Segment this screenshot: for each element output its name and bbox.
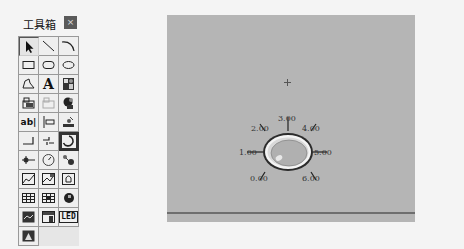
dial-meter-icon [61, 134, 76, 148]
tool-ellipse[interactable] [59, 56, 79, 75]
arc-icon [61, 39, 76, 53]
tool-xy-chart[interactable] [39, 170, 59, 189]
dial-label-3: 3.00 [278, 114, 296, 123]
slider-icon [41, 115, 56, 129]
close-button[interactable]: × [64, 16, 77, 29]
tool-grid-table[interactable] [19, 189, 39, 208]
activex-icon [61, 96, 76, 110]
tool-symbol-library[interactable] [19, 94, 39, 113]
tool-data-window[interactable] [39, 208, 59, 227]
tool-input-box[interactable]: ab| [19, 113, 39, 132]
tool-arc[interactable] [59, 37, 79, 56]
history-curve-icon [21, 210, 36, 224]
tool-animation[interactable] [59, 113, 79, 132]
text-icon: A [43, 77, 54, 91]
input-box-icon: ab| [21, 117, 37, 127]
tool-led-display[interactable]: LED [59, 208, 79, 227]
data-window-icon [41, 210, 56, 224]
xy-chart-icon [41, 172, 56, 186]
tool-grid: A ab| [18, 36, 79, 246]
tool-history-curve[interactable] [19, 208, 39, 227]
dial-label-5: 5.00 [314, 148, 332, 157]
tool-dial-meter[interactable] [59, 132, 79, 151]
gauge-icon [41, 153, 56, 167]
trend-chart-icon [21, 172, 36, 186]
ole-object-icon [41, 96, 56, 110]
tool-pump[interactable] [59, 151, 79, 170]
pump-icon [61, 153, 76, 167]
custom-control-icon [61, 191, 76, 205]
folder-icon [21, 96, 36, 110]
dial-label-0: 0.00 [250, 174, 268, 183]
event-window-icon [21, 229, 36, 243]
tool-valve[interactable] [19, 151, 39, 170]
tool-rectangle[interactable] [19, 56, 39, 75]
led-icon: LED [59, 211, 77, 223]
valve-icon [21, 153, 36, 167]
tool-bitmap[interactable] [59, 75, 79, 94]
dial-label-4: 4.00 [302, 124, 320, 133]
toolbox-header[interactable]: 工具箱 × [17, 13, 80, 33]
pipe-icon [21, 134, 36, 148]
tool-polygon[interactable] [19, 75, 39, 94]
tool-report-table[interactable] [39, 189, 59, 208]
tool-text[interactable]: A [39, 75, 59, 94]
dial-label-6: 6.00 [302, 174, 320, 183]
tool-gauge[interactable] [39, 151, 59, 170]
rounded-rectangle-icon [41, 58, 56, 72]
tool-alarm-window[interactable] [59, 170, 79, 189]
toolbox-panel: 工具箱 × A [17, 13, 80, 241]
polygon-icon [21, 77, 36, 91]
grid-table-icon [21, 191, 36, 205]
tool-slider[interactable] [39, 113, 59, 132]
tool-pipe[interactable] [19, 132, 39, 151]
tool-ole-object[interactable] [39, 94, 59, 113]
tool-activex[interactable] [59, 94, 79, 113]
report-table-icon [41, 191, 56, 205]
rectangle-icon [21, 58, 36, 72]
dial-label-1: 1.00 [239, 148, 257, 157]
pointer-icon [22, 40, 37, 54]
dial-label-2: 2.00 [251, 124, 269, 133]
toolbox-title: 工具箱 [23, 16, 56, 32]
line-icon [41, 39, 56, 53]
bitmap-icon [61, 77, 76, 91]
alarm-bell-icon [61, 172, 76, 186]
tool-rounded-rectangle[interactable] [39, 56, 59, 75]
animation-icon [61, 115, 76, 129]
design-canvas[interactable]: 0.00 1.00 2.00 3.00 4.00 5.00 6.00 [167, 15, 415, 222]
tool-custom-control[interactable] [59, 189, 79, 208]
tool-event-window[interactable] [19, 227, 39, 246]
flow-line-icon [41, 134, 56, 148]
canvas-baseline [167, 212, 415, 214]
ellipse-icon [61, 58, 76, 72]
crosshair-marker [284, 79, 291, 86]
tool-pointer[interactable] [19, 37, 39, 56]
tool-flow-line[interactable] [39, 132, 59, 151]
tool-line[interactable] [39, 37, 59, 56]
tool-trend-chart[interactable] [19, 170, 39, 189]
